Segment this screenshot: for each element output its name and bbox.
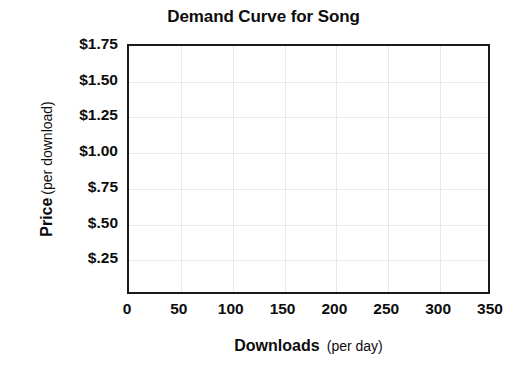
plot-area (127, 44, 490, 294)
x-axis-title: Downloads (per day) (127, 337, 490, 355)
x-axis-tick-label: 350 (460, 300, 520, 318)
y-axis-title: Price (per download) (34, 44, 60, 294)
x-axis-title-main: Downloads (234, 337, 319, 354)
y-axis-title-main: Price (38, 198, 56, 237)
x-axis-title-unit: (per day) (327, 338, 383, 354)
x-axis-tick-label-group: 050100150200250300350 (0, 300, 527, 322)
y-axis-title-unit: (per download) (39, 101, 55, 194)
data-series-layer (129, 46, 488, 292)
chart-title: Demand Curve for Song (0, 7, 527, 27)
chart-figure: Demand Curve for Song $1.75$1.50$1.25$1.… (0, 0, 527, 379)
